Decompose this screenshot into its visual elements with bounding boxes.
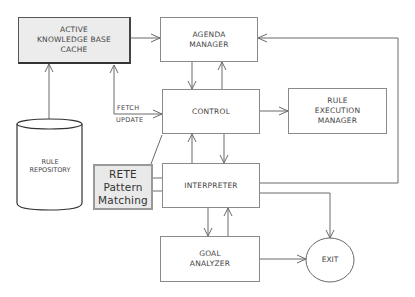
- system-architecture-diagram: ACTIVE KNOWLEDGE BASE CACHE AGENDA MANAG…: [0, 0, 415, 297]
- node-label-line: EXECUTION: [315, 106, 360, 116]
- node-label-line: RETE: [109, 168, 137, 181]
- edge-label-update: UPDATE: [116, 116, 143, 124]
- node-label-line: MANAGER: [318, 116, 357, 126]
- node-label-line: GOAL: [199, 249, 221, 259]
- node-label-line: INTERPRETER: [184, 181, 238, 191]
- node-interpreter: INTERPRETER: [162, 163, 260, 208]
- node-label-line: Pattern: [103, 181, 142, 194]
- node-label-line: RULE: [17, 158, 83, 166]
- node-control: CONTROL: [162, 89, 260, 134]
- node-rule-repository: RULE REPOSITORY: [17, 158, 83, 174]
- node-label-line: REPOSITORY: [17, 166, 83, 174]
- edge-rete-to-control: [151, 135, 162, 164]
- node-goal-analyzer: GOAL ANALYZER: [160, 236, 260, 282]
- node-label-line: KNOWLEDGE BASE: [37, 35, 111, 45]
- node-exit-label: EXIT: [306, 255, 354, 264]
- edge-label-fetch: FETCH: [117, 104, 139, 112]
- node-label-line: ANALYZER: [190, 259, 230, 269]
- node-label-line: Matching: [98, 194, 148, 207]
- node-knowledge-base-cache: ACTIVE KNOWLEDGE BASE CACHE: [18, 17, 131, 64]
- node-label-line: RULE: [327, 96, 347, 106]
- node-label-line: CACHE: [61, 45, 88, 55]
- node-label-line: AGENDA: [192, 30, 225, 40]
- node-label-line: CONTROL: [192, 107, 230, 117]
- node-agenda-manager: AGENDA MANAGER: [160, 17, 258, 62]
- node-rete-pattern-matching: RETE Pattern Matching: [93, 164, 153, 210]
- node-label-line: MANAGER: [189, 40, 228, 50]
- edge-interpreter-to-exit: [260, 193, 330, 238]
- node-rule-execution-manager: RULE EXECUTION MANAGER: [288, 88, 387, 134]
- node-label-line: ACTIVE: [60, 25, 88, 35]
